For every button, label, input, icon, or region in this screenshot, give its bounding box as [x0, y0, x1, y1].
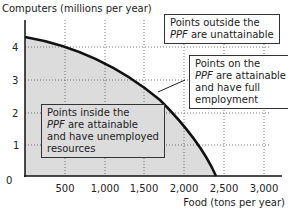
y-tick-3: 3 [12, 75, 18, 86]
annotation-line: Points on the [195, 58, 286, 70]
y-tick-2: 2 [12, 108, 18, 119]
annotation-on: Points on the PPF are attainable and hav… [189, 55, 288, 109]
y-axis-title: Computers (millions per year) [2, 3, 152, 14]
x-tick-2500: 2,500 [210, 183, 239, 194]
y-tick-4: 4 [12, 42, 18, 53]
annotation-line: Points outside the [170, 17, 274, 29]
x-tick-3000: 3,000 [250, 183, 279, 194]
annotation-line: PPF are unattainable [170, 29, 274, 41]
ppf-term: PPF [170, 29, 188, 40]
x-tick-2000: 2,000 [170, 183, 199, 194]
annotation-line: resources [47, 143, 159, 155]
annotation-text: are unattainable [188, 29, 274, 40]
ppf-term: PPF [47, 119, 65, 130]
x-axis-title: Food (tons per year) [183, 197, 285, 208]
annotation-text: are attainable [213, 70, 286, 81]
annotation-line: employment [195, 94, 286, 106]
ppf-term: PPF [195, 70, 213, 81]
annotation-line: PPF are attainable [195, 70, 286, 82]
x-tick-1000: 1,000 [91, 183, 120, 194]
annotation-outside: Points outside the PPF are unattainable [164, 14, 280, 44]
annotation-inside: Points inside the PPF are attainable and… [41, 104, 165, 158]
annotation-line: and have unemployed [47, 131, 159, 143]
annotation-pointer [158, 80, 185, 92]
x-tick-1500: 1,500 [130, 183, 159, 194]
annotation-text: are attainable [65, 119, 138, 130]
annotation-line: Points inside the [47, 107, 159, 119]
y-tick-1: 1 [13, 140, 19, 151]
origin-label: 0 [6, 175, 12, 186]
annotation-line: and have full [195, 82, 286, 94]
annotation-line: PPF are attainable [47, 119, 159, 131]
x-tick-500: 500 [55, 183, 74, 194]
